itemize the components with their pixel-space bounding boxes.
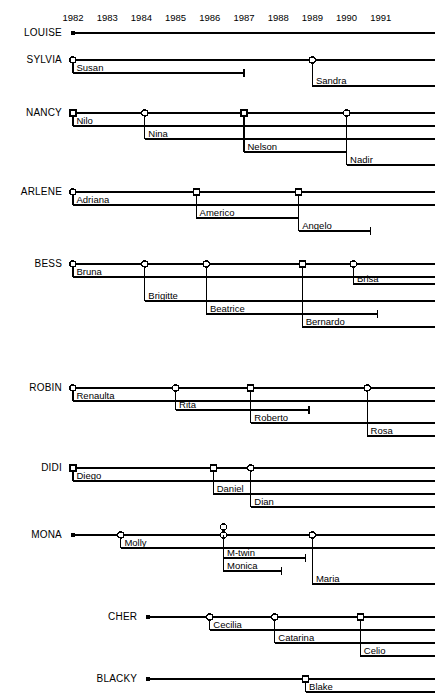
mother-row: ROBINRenaultaRitaRobertoRosa	[29, 382, 435, 436]
offspring-name-label: Blake	[309, 681, 333, 692]
offspring-name-label: Brigitte	[148, 290, 178, 301]
year-tick-label: 1982	[62, 12, 83, 23]
female-offspring-marker[interactable]	[248, 465, 254, 471]
female-offspring-marker[interactable]	[207, 614, 213, 620]
female-offspring-marker[interactable]	[142, 261, 148, 267]
mother-row: CHERCeciliaCatarinaCelio	[108, 611, 435, 656]
mother-name-label: DIDI	[41, 462, 62, 473]
mother-row: BLACKYBlake	[97, 673, 435, 692]
male-offspring-marker[interactable]	[296, 189, 302, 195]
male-offspring-marker[interactable]	[357, 614, 363, 620]
mother-name-label: ARLENE	[21, 186, 62, 197]
male-offspring-marker[interactable]	[70, 465, 76, 471]
observation-start-dot	[146, 615, 150, 619]
year-tick-label: 1986	[199, 12, 220, 23]
timeline-svg: 1982198319841985198619871988198919901991…	[0, 0, 435, 695]
mother-row: NANCYNiloNinaNelsonNadir	[26, 107, 435, 165]
pedigree-timeline-chart: 1982198319841985198619871988198919901991…	[0, 0, 435, 695]
offspring-name-label: Renaulta	[77, 390, 116, 401]
offspring-name-label: Rosa	[371, 425, 394, 436]
mother-rows: LOUISESYLVIASusanSandraNANCYNiloNinaNels…	[21, 27, 435, 692]
female-offspring-marker[interactable]	[309, 532, 315, 538]
female-offspring-marker[interactable]	[70, 385, 76, 391]
female-offspring-marker[interactable]	[173, 385, 179, 391]
female-offspring-marker[interactable]	[350, 261, 356, 267]
female-offspring-marker[interactable]	[118, 532, 124, 538]
offspring-name-label: Bernardo	[306, 316, 345, 327]
mother-row: MONAMollyM-twinMonicaMaria	[31, 524, 435, 584]
offspring-name-label: Diego	[77, 470, 102, 481]
male-offspring-marker[interactable]	[241, 110, 247, 116]
mother-name-label: CHER	[108, 611, 137, 622]
male-offspring-marker[interactable]	[299, 261, 305, 267]
year-tick-label: 1990	[336, 12, 357, 23]
mother-row: SYLVIASusanSandra	[27, 54, 435, 86]
year-tick-label: 1983	[97, 12, 118, 23]
offspring-name-label: Sandra	[316, 75, 347, 86]
mother-name-label: SYLVIA	[27, 54, 63, 65]
observation-start-dot	[71, 31, 75, 35]
offspring-name-label: Nelson	[248, 141, 278, 152]
mother-row: DIDIDiegoDanielDian	[41, 462, 435, 507]
female-offspring-marker[interactable]	[203, 261, 209, 267]
mother-name-label: BLACKY	[97, 673, 138, 684]
female-offspring-marker[interactable]	[364, 385, 370, 391]
female-offspring-marker[interactable]	[344, 110, 350, 116]
offspring-name-label: Maria	[316, 573, 340, 584]
offspring-name-label: Nina	[148, 128, 168, 139]
year-tick-label: 1991	[370, 12, 391, 23]
year-tick-label: 1984	[131, 12, 152, 23]
offspring-name-label: Roberto	[254, 412, 288, 423]
mother-name-label: ROBIN	[29, 382, 62, 393]
offspring-name-label: Americo	[200, 207, 235, 218]
offspring-name-label: Catarina	[278, 632, 315, 643]
male-offspring-marker[interactable]	[193, 189, 199, 195]
male-offspring-marker[interactable]	[70, 110, 76, 116]
mother-row: LOUISE	[24, 27, 435, 38]
mother-row: ARLENEAdrianaAmericoAngelo	[21, 186, 435, 235]
mother-name-label: LOUISE	[24, 27, 62, 38]
offspring-name-label: Cecilia	[213, 619, 242, 630]
year-axis: 1982198319841985198619871988198919901991	[62, 12, 391, 23]
offspring-name-label: Angelo	[302, 220, 332, 231]
offspring-name-label: Rita	[179, 399, 197, 410]
offspring-name-label: Nilo	[77, 115, 93, 126]
mother-name-label: MONA	[31, 529, 62, 540]
offspring-name-label: Adriana	[77, 194, 110, 205]
female-offspring-marker[interactable]	[220, 524, 226, 530]
observation-start-dot	[71, 533, 75, 537]
offspring-name-label: Monica	[227, 560, 258, 571]
female-offspring-marker[interactable]	[272, 614, 278, 620]
offspring-name-label: Brisa	[357, 273, 379, 284]
offspring-name-label: Molly	[124, 537, 146, 548]
male-offspring-marker[interactable]	[303, 676, 309, 682]
mother-name-label: BESS	[35, 258, 63, 269]
offspring-name-label: M-twin	[227, 547, 255, 558]
male-offspring-marker[interactable]	[210, 465, 216, 471]
offspring-name-label: Dian	[254, 496, 274, 507]
year-tick-label: 1985	[165, 12, 186, 23]
offspring-name-label: Susan	[77, 62, 104, 73]
female-offspring-marker[interactable]	[70, 261, 76, 267]
year-tick-label: 1987	[233, 12, 254, 23]
female-offspring-marker[interactable]	[70, 57, 76, 63]
offspring-name-label: Beatrice	[210, 303, 245, 314]
female-offspring-marker[interactable]	[142, 110, 148, 116]
female-offspring-marker[interactable]	[309, 57, 315, 63]
male-offspring-marker[interactable]	[248, 385, 254, 391]
year-tick-label: 1989	[302, 12, 323, 23]
year-tick-label: 1988	[268, 12, 289, 23]
offspring-name-label: Celio	[364, 645, 386, 656]
offspring-name-label: Nadir	[350, 154, 373, 165]
observation-start-dot	[146, 677, 150, 681]
mother-name-label: NANCY	[26, 107, 62, 118]
offspring-name-label: Bruna	[77, 266, 103, 277]
offspring-name-label: Daniel	[217, 483, 244, 494]
mother-row: BESSBrunaBrisaBrigitteBeatriceBernardo	[35, 258, 435, 327]
female-offspring-marker[interactable]	[70, 189, 76, 195]
